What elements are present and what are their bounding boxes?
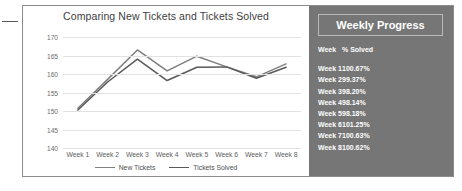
y-axis-tick-label: 165 (47, 52, 58, 59)
cell-week: Week 1 (318, 63, 342, 74)
chart-gridline (63, 130, 301, 131)
table-row: Week 299.37% (318, 74, 373, 85)
cell-percent-solved: 98.20% (342, 86, 373, 97)
chart-gridline (63, 111, 301, 112)
legend-line-icon (169, 167, 189, 168)
cell-week: Week 8 (318, 142, 342, 153)
cell-percent-solved: 100.67% (342, 63, 373, 74)
chart-gridline (63, 148, 301, 149)
chart-title: Comparing New Tickets and Tickets Solved (23, 10, 309, 22)
column-header-week: Week (318, 44, 342, 63)
x-axis-tick-label: Week 3 (123, 151, 153, 158)
cell-week: Week 4 (318, 97, 342, 108)
legend-label: Tickets Solved (193, 164, 237, 171)
chart-and-progress-panel: Comparing New Tickets and Tickets Solved… (22, 5, 454, 177)
table-body: Week 1100.67%Week 299.37%Week 398.20%Wee… (318, 63, 373, 153)
chart-gridline (63, 74, 301, 75)
legend-line-icon (95, 167, 115, 168)
chart-plot-area: 170165160155150145140 (63, 30, 301, 148)
x-axis-labels: Week 1Week 2Week 3Week 4Week 5Week 6Week… (63, 151, 301, 158)
x-axis-tick-label: Week 4 (152, 151, 182, 158)
x-axis-tick-label: Week 7 (242, 151, 272, 158)
y-axis-tick-label: 155 (47, 89, 58, 96)
cell-week: Week 2 (318, 74, 342, 85)
y-axis-tick-label: 145 (47, 126, 58, 133)
cell-week: Week 5 (318, 108, 342, 119)
cell-week: Week 3 (318, 86, 342, 97)
cell-percent-solved: 98.14% (342, 97, 373, 108)
legend-item[interactable]: New Tickets (95, 164, 156, 171)
chart-gridline (63, 56, 301, 57)
line-chart: Comparing New Tickets and Tickets Solved… (23, 6, 309, 176)
x-axis-tick-label: Week 5 (182, 151, 212, 158)
y-axis-tick-label: 160 (47, 71, 58, 78)
legend-label: New Tickets (119, 164, 156, 171)
weekly-progress-table: Week % Solved Week 1100.67%Week 299.37%W… (318, 44, 373, 153)
table-row: Week 8100.62% (318, 142, 373, 153)
chart-gridline (63, 37, 301, 38)
y-axis-tick-label: 140 (47, 145, 58, 152)
screenshot-root: Comparing New Tickets and Tickets Solved… (0, 0, 462, 191)
weekly-progress-title-box: Weekly Progress (318, 14, 443, 36)
cell-week: Week 7 (318, 130, 342, 141)
x-axis-tick-label: Week 2 (93, 151, 123, 158)
legend-item[interactable]: Tickets Solved (169, 164, 237, 171)
table-row: Week 398.20% (318, 86, 373, 97)
table-row: Week 598.18% (318, 108, 373, 119)
cell-week: Week 6 (318, 119, 342, 130)
weekly-progress-title: Weekly Progress (336, 19, 424, 31)
cell-percent-solved: 98.18% (342, 108, 373, 119)
x-axis-tick-label: Week 1 (63, 151, 93, 158)
weekly-progress-panel: Weekly Progress Week % Solved Week 1100.… (309, 6, 453, 176)
cell-percent-solved: 99.37% (342, 74, 373, 85)
table-header-row: Week % Solved (318, 44, 373, 63)
x-axis-tick-label: Week 6 (212, 151, 242, 158)
cell-percent-solved: 100.62% (342, 142, 373, 153)
y-axis-tick-label: 150 (47, 108, 58, 115)
table-row: Week 6101.25% (318, 119, 373, 130)
chart-gridline (63, 93, 301, 94)
x-axis-tick-label: Week 8 (271, 151, 301, 158)
column-header-percent-solved: % Solved (342, 44, 373, 63)
table-row: Week 1100.67% (318, 63, 373, 74)
table-row: Week 7100.63% (318, 130, 373, 141)
chart-series-line (78, 50, 286, 108)
edge-dash-decoration (2, 21, 18, 22)
cell-percent-solved: 101.25% (342, 119, 373, 130)
y-axis-tick-label: 170 (47, 34, 58, 41)
cell-percent-solved: 100.63% (342, 130, 373, 141)
chart-series-line (78, 59, 286, 110)
table-row: Week 498.14% (318, 97, 373, 108)
chart-legend: New TicketsTickets Solved (23, 164, 309, 171)
